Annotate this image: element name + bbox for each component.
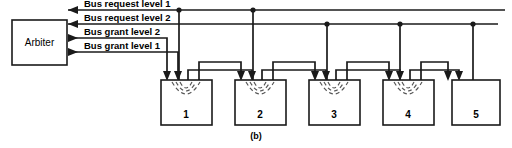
- arrow-right-grant-1: [68, 48, 78, 56]
- arrow-left-request-1: [68, 6, 78, 14]
- arrow-right-grant-2: [68, 34, 78, 42]
- arrow-down-grant2-dev5: [444, 71, 452, 81]
- bus-label-grant-level-2: Bus grant level 2: [84, 26, 160, 37]
- device-box-5: 5: [452, 80, 500, 125]
- bus-label-request-level-1: Bus request level 1: [84, 0, 171, 9]
- device-5-number: 5: [473, 109, 479, 120]
- grant2-seg-dev2-to-dev3: [273, 62, 315, 80]
- arrow-left-request-2: [68, 20, 78, 28]
- device-box-1: 1: [161, 80, 212, 125]
- device-3-number: 3: [331, 109, 337, 120]
- arbiter-label: Arbiter: [25, 37, 55, 48]
- device-box-3: 3: [309, 80, 360, 125]
- request-level-1-taps: [176, 7, 255, 80]
- grant2-seg-dev4-to-dev5: [421, 62, 448, 80]
- device-box-4: 4: [383, 80, 434, 125]
- device-4-number: 4: [405, 109, 411, 120]
- device-box-2: 2: [235, 80, 286, 125]
- grant-level-2-chain: [152, 38, 452, 81]
- figure-caption: (b): [250, 131, 262, 141]
- figure-canvas: 1 2 3: [0, 0, 512, 148]
- bus-label-request-level-2: Bus request level 2: [84, 12, 171, 23]
- bus-label-grant-level-1: Bus grant level 1: [84, 40, 161, 51]
- device-2-number: 2: [257, 109, 263, 120]
- grant2-seg-dev3-to-dev4: [347, 62, 389, 80]
- bus-arbitration-schematic: 1 2 3: [0, 0, 512, 148]
- grant2-seg-dev1-to-dev2: [199, 62, 241, 80]
- device-1-number: 1: [183, 109, 189, 120]
